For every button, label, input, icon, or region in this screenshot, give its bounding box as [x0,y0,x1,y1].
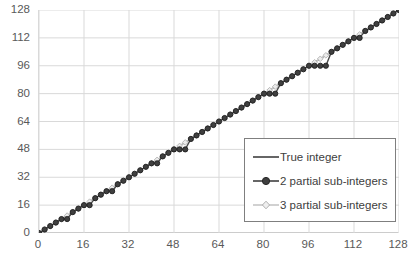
legend-label: 2 partial sub-integers [280,175,387,187]
y-tick-label: 48 [0,143,30,155]
circle-marker-swatch-icon [252,174,280,188]
y-tick-label: 80 [0,88,30,100]
y-tick-label: 112 [0,32,30,44]
x-tick-label: 112 [338,239,368,251]
legend-item-2-partial-sub-integers: 2 partial sub-integers [252,169,389,193]
y-tick-label: 16 [0,199,30,211]
y-tick-label: 32 [0,171,30,183]
legend-item-true-integer: True integer [252,145,389,169]
legend-item-3-partial-sub-integers: 3 partial sub-integers [252,193,389,217]
y-tick-label: 96 [0,60,30,72]
legend-label: 3 partial sub-integers [280,199,387,211]
line-swatch-icon [252,150,280,164]
x-tick-label: 32 [113,239,143,251]
x-tick-label: 128 [383,239,410,251]
diamond-marker-swatch-icon [252,198,280,212]
x-tick-label: 96 [293,239,323,251]
legend-label: True integer [280,151,342,163]
x-tick-label: 64 [203,239,233,251]
chart-legend: True integer 2 partial sub-integers 3 pa… [244,138,396,222]
chart-figure: 0163248648096112128 0163248648096112128 … [0,0,410,258]
x-tick-label: 80 [248,239,278,251]
x-tick-label: 16 [68,239,98,251]
y-tick-label: 128 [0,4,30,16]
y-tick-label: 64 [0,116,30,128]
y-tick-label: 0 [0,227,30,239]
x-tick-label: 48 [158,239,188,251]
x-tick-label: 0 [23,239,53,251]
